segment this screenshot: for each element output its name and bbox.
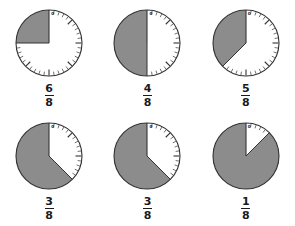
dial-graphic [209, 6, 283, 80]
fraction-label: 58 [241, 83, 250, 108]
fraction-numerator: 4 [144, 83, 152, 95]
fraction-dial[interactable]: 0 [110, 6, 184, 80]
dial-cell: 038 [98, 113, 196, 226]
dial-graphic [209, 119, 283, 193]
fraction-denominator: 8 [45, 209, 53, 221]
fraction-label: 38 [45, 196, 54, 221]
dial-cell: 048 [98, 0, 196, 113]
fraction-numerator: 1 [242, 196, 250, 208]
worksheet-canvas: 068048058038038018 [0, 0, 295, 226]
dial-cell: 038 [0, 113, 98, 226]
fraction-dial[interactable]: 0 [209, 119, 283, 193]
fraction-numerator: 5 [242, 83, 250, 95]
fraction-label: 38 [143, 196, 152, 221]
dial-cell: 058 [197, 0, 295, 113]
dial-graphic [12, 119, 86, 193]
fraction-dial[interactable]: 0 [12, 6, 86, 80]
fraction-numerator: 3 [45, 196, 53, 208]
fraction-numerator: 3 [144, 196, 152, 208]
fraction-label: 68 [45, 83, 54, 108]
fraction-denominator: 8 [144, 96, 152, 108]
dial-graphic [110, 119, 184, 193]
dial-cell: 068 [0, 0, 98, 113]
fraction-denominator: 8 [242, 96, 250, 108]
fraction-denominator: 8 [45, 96, 53, 108]
fraction-denominator: 8 [242, 209, 250, 221]
dial-shaded-sector [114, 10, 147, 76]
dial-graphic [110, 6, 184, 80]
dial-grid: 068048058038038018 [0, 0, 295, 226]
fraction-numerator: 6 [45, 83, 53, 95]
fraction-label: 48 [143, 83, 152, 108]
dial-cell: 018 [197, 113, 295, 226]
fraction-dial[interactable]: 0 [209, 6, 283, 80]
fraction-denominator: 8 [144, 209, 152, 221]
dial-graphic [12, 6, 86, 80]
fraction-dial[interactable]: 0 [12, 119, 86, 193]
fraction-label: 18 [241, 196, 250, 221]
fraction-dial[interactable]: 0 [110, 119, 184, 193]
